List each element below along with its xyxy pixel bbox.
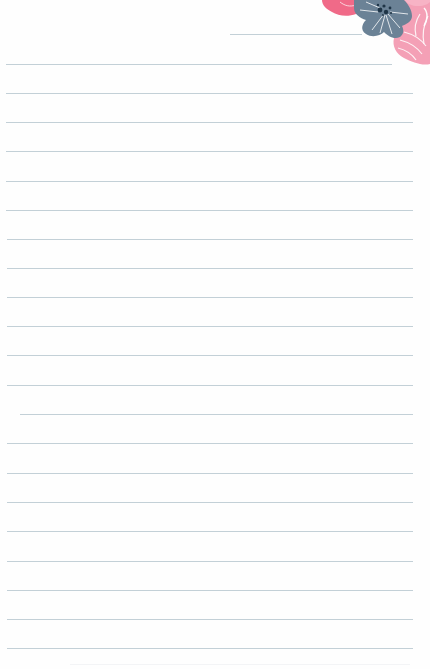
ruled-line (7, 268, 413, 269)
ruled-line (7, 502, 413, 503)
ruled-line (7, 561, 413, 562)
ruled-line (6, 181, 413, 182)
ruled-line (7, 619, 413, 620)
ruled-line (6, 151, 413, 152)
ruled-line (7, 473, 413, 474)
ruled-line (7, 297, 413, 298)
ruled-line (6, 122, 413, 123)
corner-floral-decoration (318, 0, 430, 66)
ruled-line (6, 93, 413, 94)
ruled-line (7, 326, 413, 327)
ruled-line (7, 355, 413, 356)
stationery-page (0, 0, 430, 669)
ruled-line (7, 648, 413, 649)
scan-artifact (70, 664, 410, 665)
ruled-line (7, 590, 413, 591)
ruled-line (7, 385, 413, 386)
ruled-line (6, 210, 413, 211)
ruled-line (7, 443, 413, 444)
ruled-line (20, 414, 413, 415)
ruled-line (7, 239, 413, 240)
ruled-line (7, 531, 413, 532)
